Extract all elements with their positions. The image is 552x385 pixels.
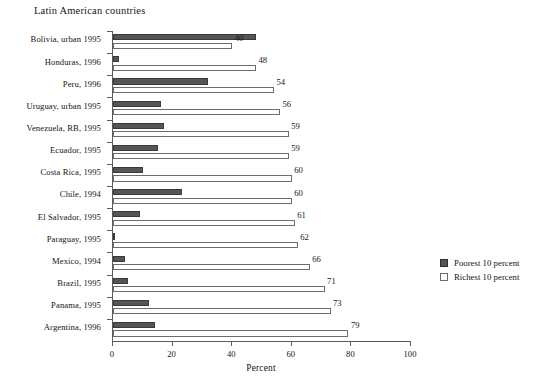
x-axis-tick-label: 0 — [110, 349, 114, 359]
category-label: Brazil, 1995 — [57, 278, 101, 288]
x-axis-tick-label: 40 — [227, 349, 236, 359]
bar-richest: 61 — [113, 220, 295, 226]
bar-richest: 73 — [113, 308, 331, 314]
chart-row: Paraguay, 199562 — [112, 230, 410, 252]
y-axis-tick — [107, 164, 112, 165]
legend-item-richest: Richest 10 percent — [440, 270, 519, 284]
y-axis-tick — [107, 275, 112, 276]
bar-value-label: 66 — [312, 254, 321, 264]
chart-row: Panama, 199573 — [112, 297, 410, 319]
chart-row: Argentina, 199679 — [112, 319, 410, 341]
bar-poorest — [113, 256, 125, 262]
bar-richest: 40 — [113, 43, 232, 49]
chart-row: Peru, 199654 — [112, 75, 410, 97]
category-label: Panama, 1995 — [51, 300, 101, 310]
category-label: Argentina, 1996 — [44, 322, 101, 332]
y-axis-tick — [107, 252, 112, 253]
legend-swatch-poorest-icon — [440, 259, 448, 267]
bar-value-label: 59 — [291, 121, 300, 131]
x-axis-tick-label: 60 — [287, 349, 296, 359]
bar-richest: 60 — [113, 175, 292, 181]
category-label: Ecuador, 1995 — [50, 145, 101, 155]
chart-row: Uruguay, urban 199556 — [112, 97, 410, 119]
category-label: Honduras, 1996 — [45, 57, 101, 67]
bar-poorest — [113, 56, 119, 62]
x-axis-tick — [350, 341, 351, 346]
bar-value-label: 40 — [235, 33, 244, 43]
x-axis-tick — [231, 341, 232, 346]
x-axis-tick-label: 100 — [404, 349, 417, 359]
chart-row: Ecuador, 199559 — [112, 142, 410, 164]
chart-row: Chile, 199460 — [112, 186, 410, 208]
bar-richest: 54 — [113, 87, 274, 93]
y-axis-tick — [107, 319, 112, 320]
y-axis-tick — [107, 186, 112, 187]
y-axis-tick — [107, 120, 112, 121]
chart-row: El Salvador, 199561 — [112, 208, 410, 230]
y-axis-tick — [107, 53, 112, 54]
y-axis-tick — [107, 97, 112, 98]
bar-poorest — [113, 278, 128, 284]
plot-area: Bolivia, urban 199540Honduras, 199648Per… — [112, 31, 410, 341]
bar-value-label: 54 — [276, 77, 285, 87]
bar-value-label: 79 — [351, 320, 360, 330]
bar-poorest — [113, 101, 161, 107]
category-label: El Salvador, 1995 — [38, 212, 101, 222]
bar-richest: 66 — [113, 264, 310, 270]
bar-value-label: 59 — [291, 143, 300, 153]
y-axis-tick — [107, 31, 112, 32]
category-label: Peru, 1996 — [63, 79, 101, 89]
y-axis-tick — [107, 208, 112, 209]
bar-richest: 48 — [113, 65, 256, 71]
bar-richest: 59 — [113, 131, 289, 137]
chart-row: Mexico, 199466 — [112, 252, 410, 274]
category-label: Venezuela, RB, 1995 — [27, 123, 101, 133]
chart-legend: Poorest 10 percent Richest 10 percent — [440, 256, 519, 284]
bar-richest: 79 — [113, 330, 348, 336]
y-axis-tick — [107, 142, 112, 143]
bar-value-label: 48 — [259, 55, 268, 65]
bar-richest: 71 — [113, 286, 325, 292]
bar-poorest — [113, 189, 182, 195]
bar-richest: 59 — [113, 153, 289, 159]
chart-row: Brazil, 199571 — [112, 275, 410, 297]
chart-row: Venezuela, RB, 199559 — [112, 120, 410, 142]
category-label: Mexico, 1994 — [52, 256, 101, 266]
bar-poorest — [113, 123, 164, 129]
bar-value-label: 73 — [333, 298, 342, 308]
bar-richest: 56 — [113, 109, 280, 115]
bar-poorest — [113, 167, 143, 173]
x-axis-line — [112, 341, 411, 342]
x-axis-tick — [410, 341, 411, 346]
bar-poorest — [113, 78, 208, 84]
x-axis-tick — [172, 341, 173, 346]
x-axis-tick-label: 80 — [346, 349, 355, 359]
bar-richest: 62 — [113, 242, 298, 248]
bar-value-label: 60 — [294, 165, 303, 175]
legend-label-richest: Richest 10 percent — [454, 272, 519, 282]
y-axis-tick — [107, 75, 112, 76]
bar-poorest — [113, 211, 140, 217]
chart-row: Bolivia, urban 199540 — [112, 31, 410, 53]
bar-poorest — [113, 300, 149, 306]
bar-value-label: 71 — [327, 276, 336, 286]
category-label: Paraguay, 1995 — [47, 234, 101, 244]
bar-poorest — [113, 322, 155, 328]
bar-value-label: 61 — [297, 210, 306, 220]
y-axis-tick — [107, 230, 112, 231]
category-label: Costa Rica, 1995 — [40, 167, 101, 177]
bar-value-label: 62 — [300, 232, 309, 242]
y-axis-tick — [107, 297, 112, 298]
x-axis-tick-label: 20 — [167, 349, 176, 359]
bar-poorest — [113, 233, 115, 239]
chart-row: Honduras, 199648 — [112, 53, 410, 75]
legend-item-poorest: Poorest 10 percent — [440, 256, 519, 270]
legend-label-poorest: Poorest 10 percent — [454, 258, 519, 268]
category-label: Chile, 1994 — [60, 189, 101, 199]
category-label: Uruguay, urban 1995 — [26, 101, 101, 111]
bar-poorest — [113, 145, 158, 151]
chart-row: Costa Rica, 199560 — [112, 164, 410, 186]
bar-value-label: 60 — [294, 188, 303, 198]
x-axis-tick — [112, 341, 113, 346]
page-title: Latin American countries — [34, 5, 146, 16]
